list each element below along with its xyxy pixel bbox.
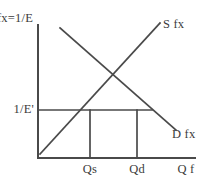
demand-curve-label: D fx	[172, 128, 195, 141]
supply-curve	[40, 23, 160, 154]
qs-tick-label: Qs	[83, 163, 97, 176]
supply-curve-label: S fx	[163, 18, 184, 31]
y-axis-label: Pfx=1/E	[0, 12, 33, 25]
fx-supply-demand-diagram: Pfx=1/E 1/E' S fx D fx Qs Qd Q f	[0, 0, 216, 181]
x-axis-label: Q f	[178, 163, 195, 176]
demand-curve	[60, 28, 176, 130]
price-level-label: 1/E'	[14, 103, 34, 116]
qd-tick-label: Qd	[129, 163, 145, 176]
